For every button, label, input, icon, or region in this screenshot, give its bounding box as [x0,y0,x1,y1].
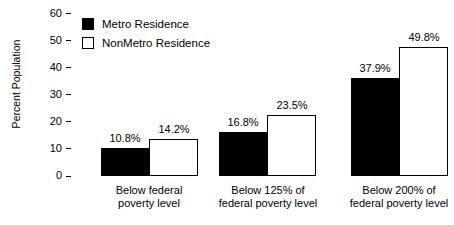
bar-nonmetro-below-200-federal-poverty-level [399,47,448,176]
bar-value-nonmetro-below-125-federal-poverty-level: 23.5% [260,100,324,111]
category-label-below-200-federal-poverty-level: Below 200% of federal poverty level [338,184,454,210]
category-label-line-2: federal poverty level [207,197,329,210]
category-label-below-federal-poverty-level: Below federal poverty level [89,184,209,210]
category-label-line-2: poverty level [89,197,209,210]
category-label-line-1: Below federal [89,184,209,197]
category-label-line-2: federal poverty level [338,197,454,210]
bar-value-nonmetro-below-federal-poverty-level: 14.2% [142,124,206,135]
bar-metro-below-125-federal-poverty-level [219,132,267,176]
bar-value-metro-below-125-federal-poverty-level: 16.8% [211,117,275,128]
bar-metro-below-federal-poverty-level [101,148,149,176]
bar-nonmetro-below-125-federal-poverty-level [267,115,316,176]
bar-metro-below-200-federal-poverty-level [351,78,399,176]
category-label-line-1: Below 125% of [207,184,329,197]
category-label-line-1: Below 200% of [338,184,454,197]
bar-nonmetro-below-federal-poverty-level [149,139,198,176]
category-label-below-125-federal-poverty-level: Below 125% of federal poverty level [207,184,329,210]
bar-value-nonmetro-below-200-federal-poverty-level: 49.8% [392,32,454,43]
bar-value-metro-below-200-federal-poverty-level: 37.9% [343,63,407,74]
bar-chart: Percent Population 60 50 40 30 20 10 0 M… [0,0,454,225]
plot-area: 10.8% 14.2% Below federal poverty level … [0,0,454,225]
